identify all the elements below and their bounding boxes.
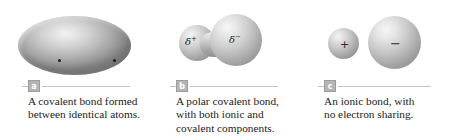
panel-a: a A covalent bond formed between identic…: [0, 0, 150, 137]
panel-a-badge: a: [28, 80, 40, 92]
panel-c-caption-line-2: no electron sharing.: [324, 108, 443, 121]
panel-b-caption: A polar covalent bond, with both ionic a…: [176, 95, 290, 135]
panel-c: + − c An ionic bond, with no electron sh…: [296, 0, 451, 137]
panel-a-rule-right: [42, 86, 130, 87]
panel-a-caption: A covalent bond formed between identical…: [28, 95, 142, 122]
panel-a-caption-line-2: between identical atoms.: [28, 108, 142, 121]
panel-b-badge: b: [176, 80, 188, 92]
panel-b: δ+ δ− b A polar covalent bond, with both…: [148, 0, 298, 137]
delta-positive-label: δ+: [185, 36, 197, 47]
bond-type-figure: a A covalent bond formed between identic…: [0, 0, 451, 137]
panel-b-caption-line-1: A polar covalent bond,: [176, 95, 290, 108]
panel-c-caption-line-1: An ionic bond, with: [324, 95, 443, 108]
polar-covalent-peanut: δ+ δ−: [148, 0, 298, 80]
panel-c-caption: An ionic bond, with no electron sharing.: [324, 95, 443, 122]
panel-c-artwork: + −: [296, 0, 451, 80]
panel-b-rule-right: [190, 86, 278, 87]
panel-a-rule-row: a: [0, 80, 150, 94]
panel-c-rule-right: [338, 86, 431, 87]
positive-charge-label: +: [340, 39, 349, 50]
panel-b-caption-line-3: covalent components.: [176, 122, 290, 135]
panel-a-caption-line-1: A covalent bond formed: [28, 95, 142, 108]
panel-c-rule-row: c: [296, 80, 451, 94]
electron-dot-right: [113, 59, 116, 62]
panel-b-artwork: δ+ δ−: [148, 0, 298, 80]
panel-a-artwork: [0, 0, 150, 80]
covalent-bond-ellipse: [18, 16, 131, 75]
panel-b-rule-row: b: [148, 80, 298, 94]
delta-negative-superscript: −: [235, 33, 241, 41]
panel-c-badge: c: [324, 80, 336, 92]
electron-dot-left: [58, 59, 61, 62]
panel-b-caption-line-2: with both ionic and: [176, 108, 290, 121]
delta-positive-superscript: +: [191, 35, 197, 43]
delta-negative-label: δ−: [229, 34, 241, 45]
negative-charge-label: −: [390, 37, 401, 50]
